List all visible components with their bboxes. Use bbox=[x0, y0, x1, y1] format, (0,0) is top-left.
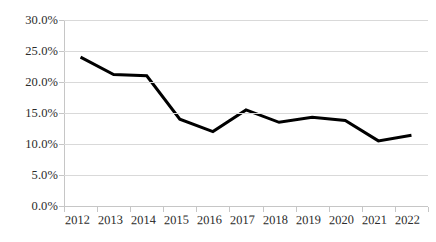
x-axis-tick bbox=[97, 207, 98, 212]
y-axis-tick-label: 10.0% bbox=[0, 138, 58, 151]
x-axis-tick-label: 2019 bbox=[296, 213, 321, 228]
y-axis-tick-labels: 0.0%5.0%10.0%15.0%20.0%25.0%30.0% bbox=[0, 0, 58, 242]
x-axis-tick-label: 2021 bbox=[362, 213, 387, 228]
x-axis-tick-label: 2022 bbox=[395, 213, 420, 228]
line-chart: 0.0%5.0%10.0%15.0%20.0%25.0%30.0% 201220… bbox=[0, 0, 436, 242]
x-axis-tick bbox=[329, 207, 330, 212]
x-axis-tick-label: 2020 bbox=[329, 213, 354, 228]
x-axis-tick bbox=[130, 207, 131, 212]
x-axis-tick-label: 2015 bbox=[164, 213, 189, 228]
series-line bbox=[81, 57, 412, 141]
y-axis-tick-label: 30.0% bbox=[0, 14, 58, 27]
x-axis-tick-labels: 2012201320142015201620172018201920202021… bbox=[0, 213, 436, 242]
gridline bbox=[64, 144, 428, 145]
x-axis-tick-label: 2013 bbox=[98, 213, 123, 228]
y-axis-tick bbox=[59, 175, 64, 176]
x-axis-tick bbox=[296, 207, 297, 212]
gridline bbox=[64, 206, 428, 207]
gridline bbox=[64, 175, 428, 176]
y-axis-tick-label: 20.0% bbox=[0, 76, 58, 89]
y-axis-tick-label: 15.0% bbox=[0, 107, 58, 120]
x-axis-tick bbox=[64, 207, 65, 212]
plot-area bbox=[64, 20, 428, 206]
y-axis-tick-label: 5.0% bbox=[0, 169, 58, 182]
gridline bbox=[64, 113, 428, 114]
gridline bbox=[64, 82, 428, 83]
gridline bbox=[64, 20, 428, 21]
x-axis-tick bbox=[163, 207, 164, 212]
x-axis-tick-label: 2016 bbox=[197, 213, 222, 228]
y-axis-tick bbox=[59, 82, 64, 83]
x-axis-tick bbox=[428, 207, 429, 212]
y-axis-tick bbox=[59, 144, 64, 145]
y-axis-tick bbox=[59, 20, 64, 21]
x-axis-tick bbox=[395, 207, 396, 212]
y-axis-tick bbox=[59, 113, 64, 114]
x-axis-tick bbox=[196, 207, 197, 212]
y-axis-tick bbox=[59, 51, 64, 52]
x-axis-tick-label: 2018 bbox=[263, 213, 288, 228]
x-axis-tick-label: 2014 bbox=[131, 213, 156, 228]
x-axis-tick-label: 2012 bbox=[65, 213, 90, 228]
gridline bbox=[64, 51, 428, 52]
x-axis-tick-label: 2017 bbox=[230, 213, 255, 228]
y-axis-tick-label: 25.0% bbox=[0, 45, 58, 58]
x-axis-tick bbox=[362, 207, 363, 212]
x-axis-tick bbox=[229, 207, 230, 212]
x-axis-tick bbox=[263, 207, 264, 212]
y-axis-tick-label: 0.0% bbox=[0, 200, 58, 213]
